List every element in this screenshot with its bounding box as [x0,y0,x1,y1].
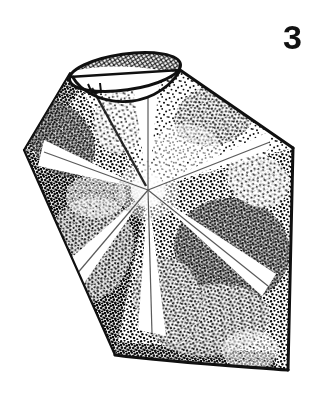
specimen-illustration [0,0,323,409]
figure-plate: 3 [0,0,323,409]
figure-number-label: 3 [283,20,302,54]
